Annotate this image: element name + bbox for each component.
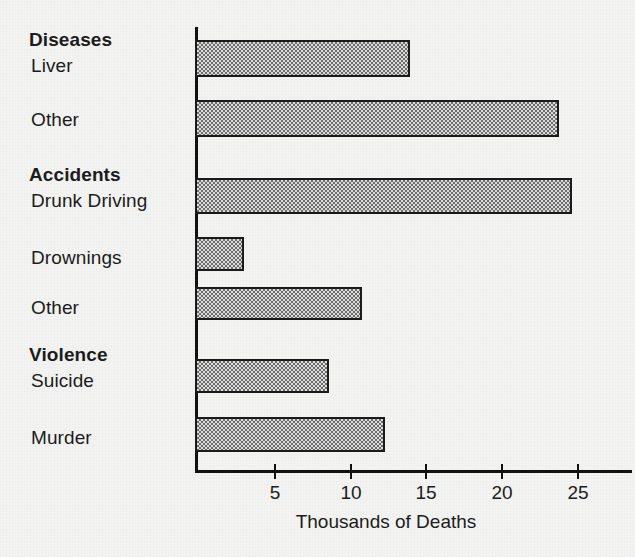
bar-drownings [195, 237, 244, 271]
category-label-murder: Murder [31, 428, 92, 447]
x-tick-label-25: 25 [567, 483, 588, 502]
x-axis-title: Thousands of Deaths [296, 512, 477, 532]
x-tick-label-10: 10 [340, 483, 361, 502]
x-tick-25 [577, 464, 579, 479]
group-label-accidents: Accidents [29, 165, 121, 184]
bar-liver [195, 40, 410, 77]
category-label-liver: Liver [31, 56, 73, 75]
bar-suicide [195, 359, 329, 393]
x-tick-label-15: 15 [415, 483, 436, 502]
bar-murder [195, 417, 385, 452]
bar-drunk-driving [195, 178, 572, 214]
x-tick-5 [274, 464, 276, 479]
category-label-drunk-driving: Drunk Driving [31, 191, 147, 210]
bar-disease-other [195, 100, 559, 137]
category-label-drownings: Drownings [31, 248, 122, 267]
group-label-violence: Violence [29, 345, 108, 364]
category-label-suicide: Suicide [31, 371, 94, 390]
x-axis-line [195, 470, 632, 473]
x-tick-20 [501, 464, 503, 479]
category-label-disease-other: Other [31, 110, 79, 129]
group-label-diseases: Diseases [29, 30, 112, 49]
x-tick-label-5: 5 [270, 483, 281, 502]
x-tick-15 [425, 464, 427, 479]
x-tick-label-20: 20 [491, 483, 512, 502]
category-label-accident-other: Other [31, 298, 79, 317]
x-tick-10 [350, 464, 352, 479]
bar-accident-other [195, 287, 362, 320]
chart-figure: Diseases Liver Other Accidents Drunk Dri… [0, 0, 635, 557]
